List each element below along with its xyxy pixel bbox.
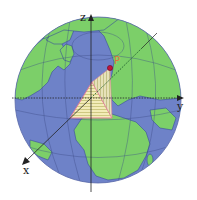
point-p-marker	[107, 65, 112, 70]
globe-diagram: z y x P	[0, 0, 197, 200]
x-axis-label: x	[23, 165, 29, 176]
globe-svg	[0, 0, 197, 200]
y-axis-label: y	[177, 101, 183, 112]
z-axis-label: z	[80, 12, 86, 23]
point-p-label: P	[114, 56, 120, 66]
